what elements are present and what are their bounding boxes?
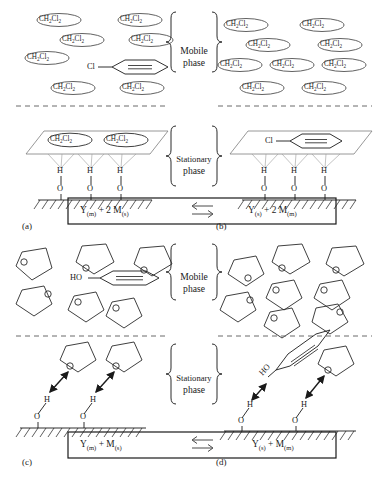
solvent-label-dcm: CH2Cl2 bbox=[106, 136, 128, 145]
mobile-phase-label-line1: Mobile bbox=[177, 46, 211, 56]
solvent-label-dcm: CH2Cl2 bbox=[120, 16, 142, 25]
solvent-label-dcm: CH2Cl2 bbox=[320, 41, 342, 50]
solvent-label-dcm: CH2Cl2 bbox=[242, 84, 264, 93]
equation-bottom-arrows bbox=[192, 437, 213, 452]
panel-c-mobile-solvents bbox=[16, 244, 172, 328]
solvent-label-dcm: CH2Cl2 bbox=[248, 41, 270, 50]
stationary-phase-label-line1: Stationary bbox=[172, 374, 216, 383]
equation-top-right: Y(s) + 2 M(m) bbox=[248, 206, 297, 217]
equation-top-left: Y(m) + 2 M(s) bbox=[80, 206, 129, 217]
solvent-label-dcm: CH2Cl2 bbox=[62, 36, 84, 45]
stationary-phase-label-line2: phase bbox=[177, 385, 211, 395]
hydrogen-label: H bbox=[87, 167, 93, 175]
solvent-label-dcm: CH2Cl2 bbox=[50, 136, 72, 145]
equation-bottom-right: Y(s) + M(m) bbox=[252, 440, 294, 451]
hydroxyl-label: HO bbox=[70, 274, 82, 282]
chlorine-label: Cl bbox=[87, 63, 95, 71]
solvent-label-dcm: CH2Cl2 bbox=[27, 54, 49, 63]
hydrogen-label: H bbox=[117, 167, 123, 175]
thf-molecule bbox=[264, 308, 300, 338]
solvent-label-dcm: CH2Cl2 bbox=[122, 84, 144, 93]
oxygen-label: O bbox=[291, 185, 297, 193]
thf-molecule bbox=[60, 342, 96, 372]
thf-molecule bbox=[16, 248, 52, 280]
panel-d-stationary-solvent bbox=[318, 346, 354, 376]
solvent-label-dcm: CH2Cl2 bbox=[131, 36, 153, 45]
panel-c-hydrogen-bond-arrows bbox=[50, 372, 114, 392]
solvent-label-dcm: CH2Cl2 bbox=[272, 61, 294, 70]
oxygen-label: O bbox=[292, 417, 298, 425]
mobile-phase-label-line2: phase bbox=[177, 284, 211, 294]
thf-molecule bbox=[68, 292, 104, 322]
chlorine-label: Cl bbox=[265, 137, 273, 145]
oxygen-label: O bbox=[87, 185, 93, 193]
figure-vector-layer bbox=[0, 0, 388, 478]
hydrogen-label: H bbox=[261, 167, 267, 175]
hydrogen-label: H bbox=[301, 401, 307, 409]
hydrogen-label: H bbox=[247, 401, 253, 409]
solvent-label-dcm: CH2Cl2 bbox=[220, 61, 242, 70]
stationary-phase-label-line1: Stationary bbox=[172, 155, 216, 164]
thf-molecule bbox=[76, 244, 114, 274]
oxygen-label: O bbox=[321, 185, 327, 193]
hydrogen-label: H bbox=[44, 396, 50, 404]
panel-b-mobile-solvents bbox=[218, 19, 366, 95]
oxygen-label: O bbox=[261, 185, 267, 193]
oxygen-label: O bbox=[57, 185, 63, 193]
solvent-label-dcm: CH2Cl2 bbox=[304, 84, 326, 93]
oxygen-label: O bbox=[34, 413, 40, 421]
thf-molecule bbox=[220, 292, 256, 322]
thf-molecule bbox=[326, 246, 364, 276]
mobile-phase-label-line2: phase bbox=[177, 58, 211, 68]
equation-top-arrows bbox=[192, 203, 213, 218]
hydrogen-label: H bbox=[57, 167, 63, 175]
oxygen-label: O bbox=[80, 413, 86, 421]
solvent-label-dcm: CH2Cl2 bbox=[53, 84, 75, 93]
stationary-phase-label-line2: phase bbox=[177, 166, 211, 176]
thf-molecule bbox=[228, 256, 264, 286]
equation-bottom-left: Y(m) + M(s) bbox=[80, 440, 122, 451]
panel-d-hydrogen-bond-arrows bbox=[252, 376, 324, 400]
solvent-label-dcm: CH2Cl2 bbox=[324, 61, 346, 70]
panel-tag-c: (c) bbox=[22, 458, 32, 467]
panel-d-adsorbed-solute-phenol bbox=[268, 330, 330, 377]
hydrogen-label: H bbox=[90, 396, 96, 404]
panel-c-stationary-solvents bbox=[60, 342, 142, 372]
solvent-label-dcm: CH2Cl2 bbox=[39, 16, 61, 25]
oxygen-label: O bbox=[238, 417, 244, 425]
mobile-phase-label-line1: Mobile bbox=[177, 272, 211, 282]
oxygen-label: O bbox=[117, 185, 123, 193]
solvent-label-dcm: CH2Cl2 bbox=[302, 21, 324, 30]
thf-molecule bbox=[16, 286, 52, 316]
thf-molecule bbox=[272, 244, 310, 274]
panel-a-solute-chlorobenzene bbox=[98, 60, 168, 74]
solvent-label-dcm: CH2Cl2 bbox=[226, 21, 248, 30]
panel-tag-a: (a) bbox=[22, 222, 32, 231]
panel-tag-b: (b) bbox=[216, 222, 227, 231]
thf-molecule bbox=[106, 298, 142, 328]
thf-molecule bbox=[106, 342, 142, 372]
hydrogen-label: H bbox=[291, 167, 297, 175]
panel-tag-d: (d) bbox=[216, 458, 227, 467]
panel-b-adsorbed-solute-chlorobenzene bbox=[276, 134, 342, 148]
hydrogen-label: H bbox=[321, 167, 327, 175]
panel-d-mobile-solvents bbox=[220, 244, 364, 338]
thf-molecule bbox=[266, 280, 302, 310]
chromatography-retention-figure: CH2Cl2 CH2Cl2 CH2Cl2 CH2Cl2 CH2Cl2 CH2Cl… bbox=[0, 0, 388, 478]
thf-molecule bbox=[318, 346, 354, 376]
